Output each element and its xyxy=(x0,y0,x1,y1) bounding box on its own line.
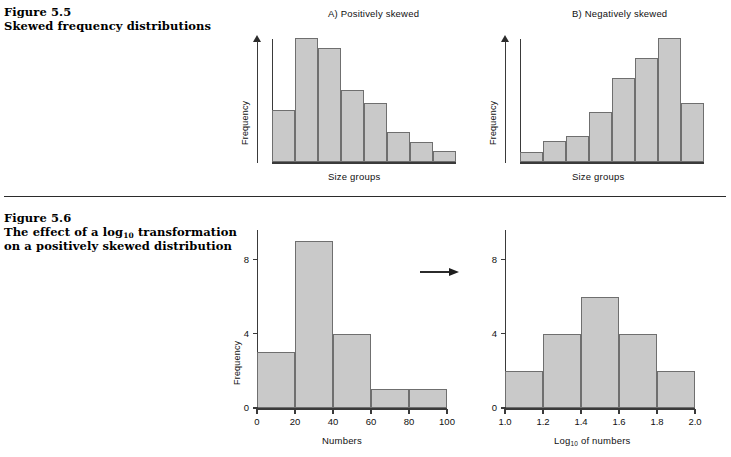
histogram-bar xyxy=(619,334,657,408)
figure-5-6-title-line1: The effect of a log10 transformation xyxy=(4,226,237,241)
x-axis-tick xyxy=(542,409,543,414)
bar xyxy=(681,103,704,162)
histogram-bar xyxy=(543,334,581,408)
figure-page: Figure 5.5 Skewed frequency distribution… xyxy=(0,0,731,457)
x-axis-tick xyxy=(256,409,257,414)
chart-negatively-skewed: B) Negatively skewed Frequency Size grou… xyxy=(484,8,719,193)
x-axis-tick-label: 60 xyxy=(355,416,387,427)
chart-a-plot-area xyxy=(272,32,456,162)
x-axis-tick xyxy=(504,409,505,414)
bar xyxy=(658,38,681,162)
bar xyxy=(364,103,387,162)
x-axis-tick xyxy=(580,409,581,414)
title-post: transformation xyxy=(134,225,237,239)
chart-numbers-histogram: Frequency 020406080100 048 Numbers xyxy=(228,222,468,454)
bar xyxy=(566,136,589,162)
bar xyxy=(589,112,612,162)
chart-positively-skewed: A) Positively skewed Frequency Size grou… xyxy=(236,8,466,193)
bar xyxy=(635,58,658,162)
x-axis-tick xyxy=(294,409,295,414)
x-axis-tick xyxy=(332,409,333,414)
y-axis-tick xyxy=(501,333,506,334)
figure-5-5-number: Figure 5.5 xyxy=(4,6,211,20)
chart-a-ylabel: Frequency xyxy=(240,101,250,145)
x-axis-tick-label: 1.6 xyxy=(603,416,635,427)
chart-b-yaxis-line xyxy=(505,41,506,163)
histogram-bar xyxy=(371,389,409,408)
x-axis-tick-label: 1.2 xyxy=(527,416,559,427)
histogram-bar xyxy=(333,334,371,408)
bar xyxy=(520,152,543,162)
histogram-bar xyxy=(257,352,295,408)
x-axis-tick-label: 1.4 xyxy=(565,416,597,427)
y-axis-tick xyxy=(253,259,258,260)
x-axis-tick xyxy=(408,409,409,414)
chart-b-xlabel: Size groups xyxy=(572,171,624,182)
figure-5-6-caption: Figure 5.6 The effect of a log10 transfo… xyxy=(4,212,237,254)
xlabel-pre: Log xyxy=(554,435,570,446)
x-axis-tick-label: 0 xyxy=(241,416,273,427)
histogram-bar xyxy=(409,389,447,408)
bar xyxy=(341,90,364,162)
bar xyxy=(318,48,341,162)
chart-d-plot-area xyxy=(505,230,695,408)
x-axis-tick-label: 1.8 xyxy=(641,416,673,427)
chart-a-yaxis-line xyxy=(257,41,258,163)
x-axis-tick-label: 40 xyxy=(317,416,349,427)
histogram-bar xyxy=(295,241,333,408)
figure-5-6-title-line2: on a positively skewed distribution xyxy=(4,240,237,254)
section-divider xyxy=(4,196,726,197)
figure-5-6-number: Figure 5.6 xyxy=(4,212,237,226)
bar xyxy=(272,110,295,162)
bar xyxy=(433,151,456,162)
chart-c-xlabel: Numbers xyxy=(322,435,362,446)
chart-b-plot-area xyxy=(520,32,704,162)
chart-b-title: B) Negatively skewed xyxy=(572,8,667,19)
x-axis-tick xyxy=(446,409,447,414)
chart-c-plot-area xyxy=(257,230,447,408)
y-axis-tick-label: 8 xyxy=(225,254,249,265)
bar xyxy=(387,132,410,162)
y-axis-tick-label: 8 xyxy=(473,254,497,265)
x-axis-tick-label: 20 xyxy=(279,416,311,427)
x-axis-tick-label: 2.0 xyxy=(679,416,711,427)
histogram-bar xyxy=(505,371,543,408)
x-axis-tick xyxy=(694,409,695,414)
y-axis-tick xyxy=(501,407,506,408)
y-axis-tick-label: 0 xyxy=(473,402,497,413)
y-axis-tick xyxy=(501,259,506,260)
bar xyxy=(612,78,635,162)
x-axis-tick-label: 100 xyxy=(431,416,463,427)
xlabel-post: of numbers xyxy=(578,435,630,446)
x-axis-tick xyxy=(618,409,619,414)
chart-c-ylabel: Frequency xyxy=(232,341,242,385)
bar xyxy=(295,38,318,162)
y-axis-tick-label: 4 xyxy=(225,328,249,339)
x-axis-tick xyxy=(370,409,371,414)
x-axis-tick-label: 80 xyxy=(393,416,425,427)
y-axis-tick-label: 0 xyxy=(225,402,249,413)
x-axis-tick xyxy=(656,409,657,414)
x-axis-tick-label: 1.0 xyxy=(489,416,521,427)
y-axis-tick-label: 4 xyxy=(473,328,497,339)
histogram-bar xyxy=(581,297,619,408)
chart-log10-histogram: 1.01.21.41.61.82.0 048 Log10 of numbers xyxy=(466,222,716,454)
chart-d-baseline xyxy=(505,408,695,410)
chart-a-xlabel: Size groups xyxy=(328,171,380,182)
title-subscript: 10 xyxy=(123,231,134,240)
chart-c-baseline xyxy=(257,408,447,410)
figure-5-5-title: Skewed frequency distributions xyxy=(4,20,211,34)
xlabel-subscript: 10 xyxy=(570,440,578,447)
chart-d-xlabel: Log10 of numbers xyxy=(554,435,630,446)
title-pre: The effect of a log xyxy=(4,225,123,239)
bar xyxy=(410,142,433,162)
bar xyxy=(543,141,566,162)
chart-a-title: A) Positively skewed xyxy=(328,8,419,19)
y-axis-tick xyxy=(253,407,258,408)
chart-b-ylabel: Frequency xyxy=(488,101,498,145)
figure-5-5-caption: Figure 5.5 Skewed frequency distribution… xyxy=(4,6,211,33)
chart-a-baseline xyxy=(272,162,456,164)
histogram-bar xyxy=(657,371,695,408)
chart-b-baseline xyxy=(520,162,704,164)
y-axis-tick xyxy=(253,333,258,334)
